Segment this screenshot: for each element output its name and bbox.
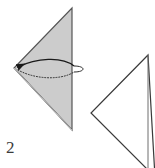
- fold-loop-curve: [74, 66, 83, 72]
- folded-paper-triangle: [14, 8, 72, 130]
- step-number-label: 2: [6, 138, 15, 158]
- origami-step-diagram: 2: [0, 0, 155, 168]
- next-step-paper-triangle: [91, 55, 155, 168]
- fold-diagram-canvas: [0, 0, 155, 168]
